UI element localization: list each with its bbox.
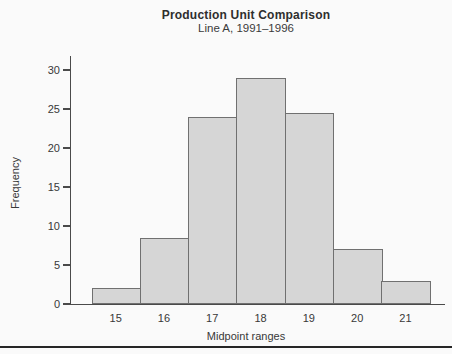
y-tick-label: 10 — [28, 220, 60, 232]
y-tick-mark — [63, 303, 70, 304]
y-tick-label: 30 — [28, 64, 60, 76]
y-axis-title: Frequency — [9, 157, 21, 209]
y-tick-label: 25 — [28, 103, 60, 115]
x-tick-label: 20 — [333, 312, 381, 324]
x-tick-label: 17 — [188, 312, 236, 324]
x-tick-label: 15 — [92, 312, 140, 324]
y-tick-mark — [63, 108, 70, 109]
bar-17 — [188, 117, 238, 304]
bar-21 — [381, 281, 431, 304]
bar-19 — [285, 113, 335, 304]
y-tick-label: 0 — [28, 298, 60, 310]
chart-title: Production Unit Comparison — [70, 8, 422, 22]
x-axis-title: Midpoint ranges — [70, 330, 422, 342]
y-tick-label: 5 — [28, 259, 60, 271]
chart-page: Production Unit Comparison Line A, 1991–… — [0, 0, 452, 354]
chart-subtitle: Line A, 1991–1996 — [70, 22, 422, 34]
page-bottom-rule — [0, 346, 452, 348]
x-tick-label: 19 — [285, 312, 333, 324]
y-tick-mark — [63, 225, 70, 226]
x-tick-label: 16 — [140, 312, 188, 324]
y-tick-label: 15 — [28, 181, 60, 193]
bar-20 — [333, 249, 383, 304]
x-tick-label: 21 — [381, 312, 429, 324]
y-tick-mark — [63, 264, 70, 265]
x-tick-label: 18 — [236, 312, 284, 324]
bar-16 — [140, 238, 190, 304]
bar-15 — [92, 288, 142, 304]
y-tick-label: 20 — [28, 142, 60, 154]
y-axis-line — [70, 56, 71, 304]
bar-18 — [236, 78, 286, 304]
y-tick-mark — [63, 147, 70, 148]
y-tick-mark — [63, 186, 70, 187]
y-tick-mark — [63, 69, 70, 70]
